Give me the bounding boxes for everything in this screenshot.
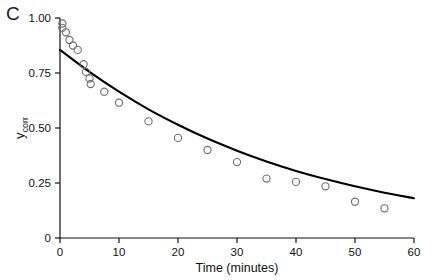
svg-text:ycorr: ycorr <box>12 117 30 139</box>
data-point <box>322 183 329 190</box>
data-point <box>69 42 76 49</box>
data-point <box>101 88 108 95</box>
data-point <box>74 46 81 53</box>
y-tick-label: 1.00 <box>29 12 51 24</box>
data-point <box>351 198 358 205</box>
figure-panel: C 0102030405060 00.250.500.751.00 Time (… <box>0 0 434 280</box>
fit-curve-path <box>60 50 414 198</box>
x-axis-title: Time (minutes) <box>196 261 279 275</box>
x-tick-label: 20 <box>172 246 185 258</box>
x-tick-label: 10 <box>113 246 126 258</box>
x-tick-label: 40 <box>290 246 303 258</box>
data-point <box>204 146 211 153</box>
x-tick-label: 60 <box>408 246 421 258</box>
x-tick-label: 50 <box>349 246 362 258</box>
y-tick-label: 0.25 <box>29 177 51 189</box>
y-axis-title: ycorr <box>12 117 30 139</box>
fit-curve <box>60 50 414 198</box>
data-point <box>145 118 152 125</box>
data-point <box>292 178 299 185</box>
y-tick-label: 0.50 <box>29 122 51 134</box>
data-point <box>174 134 181 141</box>
y-tick-label: 0 <box>45 232 51 244</box>
scatter-chart: 0102030405060 00.250.500.751.00 Time (mi… <box>0 0 434 280</box>
y-tick-label: 0.75 <box>29 67 51 79</box>
x-axis-ticks: 0102030405060 <box>57 238 421 258</box>
y-axis-ticks: 00.250.500.751.00 <box>29 12 60 244</box>
y-axis-title-sub: corr <box>20 117 30 133</box>
data-point <box>233 159 240 166</box>
x-tick-label: 30 <box>231 246 244 258</box>
axes <box>60 18 414 238</box>
data-point <box>115 99 122 106</box>
data-point <box>381 205 388 212</box>
x-tick-label: 0 <box>57 246 63 258</box>
data-point <box>263 175 270 182</box>
